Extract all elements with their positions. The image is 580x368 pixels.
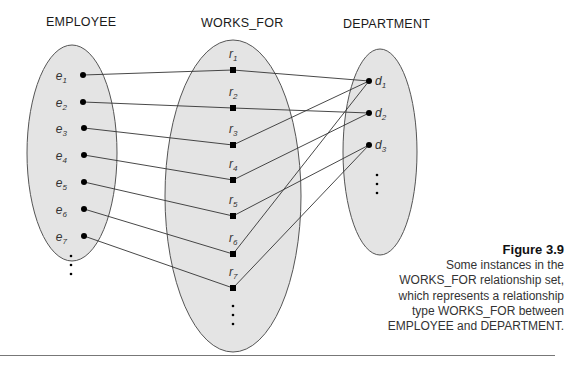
ellipsis-dot: [376, 183, 379, 186]
ellipsis-dot: [376, 192, 379, 195]
employee-node-e1: [80, 72, 86, 78]
employee-node-e4: [81, 152, 87, 158]
relationship-node-r7: [230, 285, 236, 291]
relationship-node-r3: [230, 142, 236, 148]
figure-caption-text: Some instances in the WORKS_FOR relation…: [388, 258, 564, 333]
department-node-d2: [366, 110, 372, 116]
ellipsis-dot: [376, 174, 379, 177]
employee-node-e5: [81, 179, 87, 185]
ellipsis-dot: [232, 305, 235, 308]
relationship-node-r1: [230, 67, 236, 73]
department-node-d3: [366, 142, 372, 148]
ellipsis-dot: [70, 255, 73, 258]
ellipsis-dot: [232, 314, 235, 317]
figure-caption: Figure 3.9 Some instances in the WORKS_F…: [380, 242, 564, 334]
employee-node-e3: [81, 125, 87, 131]
bottom-divider: [0, 355, 555, 356]
ellipsis-dot: [70, 273, 73, 276]
relationship-node-r6: [230, 251, 236, 257]
relationship-node-r5: [230, 213, 236, 219]
relationship-node-r2: [230, 105, 236, 111]
employee-node-e2: [80, 99, 86, 105]
employee-set-ellipse: [27, 45, 117, 261]
department-node-d1: [366, 78, 372, 84]
ellipsis-dot: [232, 323, 235, 326]
employee-node-e6: [81, 206, 87, 212]
employee-node-e7: [81, 233, 87, 239]
relationship-node-r4: [230, 177, 236, 183]
figure-label: Figure 3.9: [380, 242, 564, 257]
ellipsis-dot: [70, 264, 73, 267]
